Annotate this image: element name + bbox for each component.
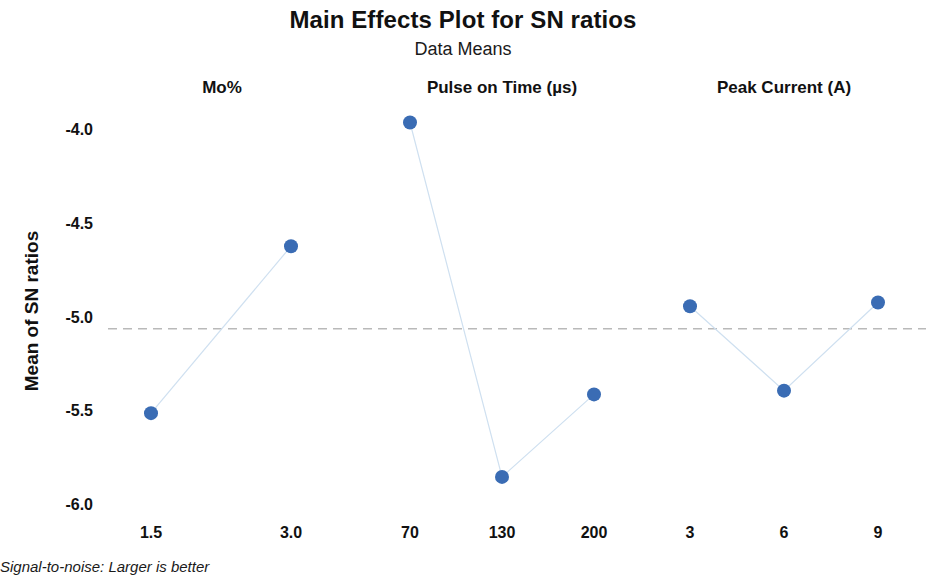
series-line-panel-3 (690, 303, 878, 391)
data-point-marker[interactable] (495, 470, 509, 484)
data-point-marker[interactable] (403, 116, 417, 130)
series-line-panel-2 (410, 123, 594, 477)
series-line-panel-1 (151, 246, 291, 413)
data-point-marker[interactable] (284, 239, 298, 253)
data-point-marker[interactable] (144, 406, 158, 420)
data-point-marker[interactable] (777, 384, 791, 398)
data-point-marker[interactable] (683, 299, 697, 313)
footnote: Signal-to-noise: Larger is better (0, 558, 209, 575)
main-effects-plot: Main Effects Plot for SN ratios Data Mea… (0, 0, 926, 581)
data-point-marker[interactable] (587, 387, 601, 401)
data-point-marker[interactable] (871, 296, 885, 310)
plot-area (0, 0, 926, 581)
